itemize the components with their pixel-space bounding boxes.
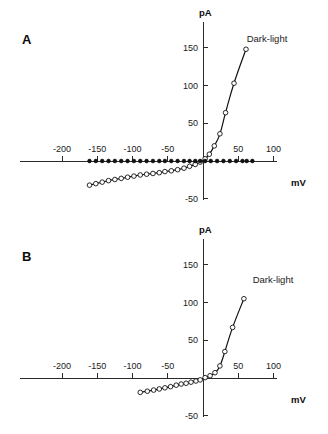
panel-b-series-annotation: Dark-light — [253, 274, 294, 285]
y-tick-label: 50 — [188, 118, 198, 128]
data-point-open — [212, 144, 217, 149]
data-point-open — [223, 110, 228, 115]
y-tick-label: -50 — [185, 411, 198, 421]
data-point-open — [223, 349, 228, 354]
data-point-open — [94, 181, 99, 186]
panel-a-y-axis-title: pA — [199, 7, 212, 18]
x-tick-label: 100 — [266, 361, 281, 371]
x-tick-label: 50 — [233, 144, 243, 154]
data-point-filled — [88, 159, 92, 163]
x-tick-label: 100 — [266, 144, 281, 154]
data-point-filled — [119, 159, 123, 163]
panel-b-letter: B — [22, 249, 31, 264]
y-tick-label: 100 — [183, 298, 198, 308]
panel-b-series — [138, 296, 246, 394]
x-tick-label: -200 — [53, 144, 71, 154]
panel-a-plot: -200-150-100-5050100-5050100150 A pA mV … — [0, 0, 328, 217]
data-point-open — [119, 176, 124, 181]
data-point-open — [87, 183, 92, 188]
panel-b-plot: -200-150-100-5050100-5050100150 B pA mV … — [0, 217, 328, 434]
data-point-filled — [193, 159, 197, 163]
panel-b-x-axis-title: mV — [291, 394, 306, 405]
data-point-filled — [163, 159, 167, 163]
data-point-open — [242, 296, 247, 301]
data-point-open — [169, 169, 174, 174]
data-point-filled — [100, 159, 104, 163]
x-tick-label: -100 — [123, 144, 141, 154]
panel-a-letter: A — [22, 32, 32, 47]
y-tick-label: 100 — [183, 81, 198, 91]
data-point-open — [203, 375, 208, 380]
data-point-open — [198, 378, 203, 383]
data-point-filled — [145, 159, 149, 163]
data-point-open — [218, 132, 223, 137]
data-point-open — [230, 325, 235, 330]
panel-a-axes: -200-150-100-5050100-5050100150 — [20, 22, 281, 204]
data-point-filled — [94, 159, 98, 163]
data-point-open — [175, 167, 180, 172]
data-point-open — [145, 389, 150, 394]
data-point-filled — [234, 159, 238, 163]
data-point-open — [208, 373, 213, 378]
panel-b: -200-150-100-5050100-5050100150 B pA mV … — [0, 217, 328, 434]
data-point-open — [125, 175, 130, 180]
panel-b-axes: -200-150-100-5050100-5050100150 — [20, 239, 281, 421]
data-point-open — [189, 380, 194, 385]
data-point-open — [157, 170, 162, 175]
panel-a-x-axis-title: mV — [291, 177, 306, 188]
data-point-open — [174, 383, 179, 388]
data-point-filled — [203, 159, 207, 163]
data-point-open — [168, 384, 173, 389]
data-point-open — [163, 169, 168, 174]
data-point-filled — [198, 159, 202, 163]
data-point-filled — [169, 159, 173, 163]
data-point-open — [207, 152, 212, 157]
data-point-filled — [176, 159, 180, 163]
data-point-open — [213, 370, 218, 375]
data-point-open — [100, 180, 105, 185]
data-point-open — [151, 171, 156, 176]
data-point-filled — [215, 159, 219, 163]
panel-b-y-axis-title: pA — [199, 224, 212, 235]
x-tick-label: -200 — [53, 361, 71, 371]
data-point-filled — [188, 159, 192, 163]
y-tick-label: 50 — [188, 335, 198, 345]
x-tick-label: -50 — [161, 361, 174, 371]
data-point-open — [113, 177, 118, 182]
data-point-open — [163, 386, 168, 391]
data-point-open — [179, 382, 184, 387]
data-point-filled — [182, 159, 186, 163]
series-curve — [90, 49, 247, 185]
data-point-filled — [209, 159, 213, 163]
data-point-filled — [126, 159, 130, 163]
data-point-open — [151, 388, 156, 393]
data-point-filled — [241, 159, 245, 163]
figure-iv-curves: -200-150-100-5050100-5050100150 A pA mV … — [0, 0, 328, 434]
panel-a: -200-150-100-5050100-5050100150 A pA mV … — [0, 0, 328, 217]
data-point-open — [232, 81, 237, 86]
data-point-open — [144, 172, 149, 177]
data-point-open — [157, 387, 162, 392]
data-point-filled — [222, 159, 226, 163]
data-point-open — [132, 174, 137, 179]
x-tick-label: -100 — [123, 361, 141, 371]
data-point-filled — [113, 159, 117, 163]
data-point-filled — [228, 159, 232, 163]
panel-a-series — [87, 47, 254, 188]
x-tick-label: -150 — [88, 144, 106, 154]
data-point-filled — [151, 159, 155, 163]
data-point-filled — [157, 159, 161, 163]
data-point-open — [138, 390, 143, 395]
data-point-filled — [107, 159, 111, 163]
y-tick-label: 150 — [183, 43, 198, 53]
x-tick-label: 50 — [233, 361, 243, 371]
x-tick-label: -150 — [88, 361, 106, 371]
data-point-open — [138, 173, 143, 178]
y-tick-label: 150 — [183, 260, 198, 270]
data-point-open — [187, 164, 192, 169]
data-point-filled — [245, 159, 249, 163]
data-point-filled — [250, 159, 254, 163]
x-tick-label: -50 — [161, 144, 174, 154]
y-tick-label: -50 — [185, 194, 198, 204]
data-point-open — [106, 178, 111, 183]
